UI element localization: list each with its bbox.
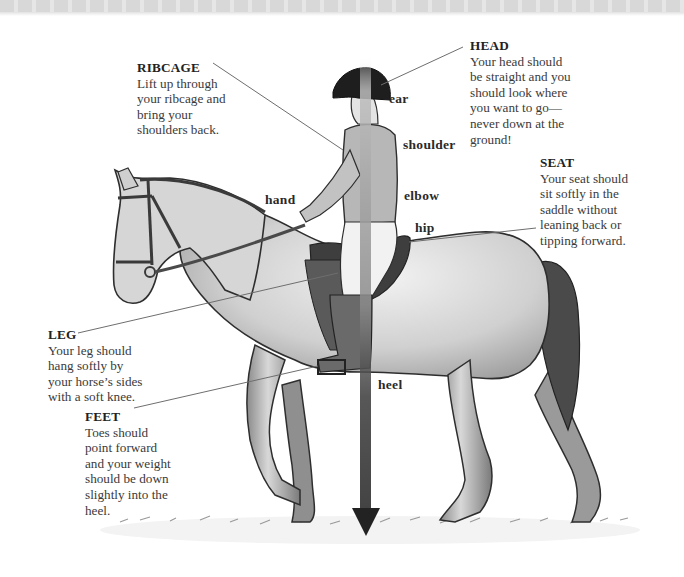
callout-head: HEAD Your head should be straight and yo… [470, 38, 610, 147]
callout-feet-body: Toes should point forward and your weigh… [85, 425, 205, 519]
callout-ribcage-body: Lift up through your ribcage and bring y… [137, 76, 267, 138]
callout-ribcage: RIBCAGE Lift up through your ribcage and… [137, 60, 267, 138]
label-hip: hip [415, 220, 435, 236]
label-shoulder: shoulder [403, 137, 456, 153]
callout-seat-title: SEAT [540, 155, 680, 171]
label-hand: hand [265, 192, 295, 208]
callout-seat: SEAT Your seat should sit softly in the … [540, 155, 680, 249]
label-elbow: elbow [404, 188, 439, 204]
callout-leg: LEG Your leg should hang softly by your … [48, 327, 178, 405]
callout-feet: FEET Toes should point forward and your … [85, 409, 205, 518]
label-ear: ear [389, 91, 409, 107]
horse-neck-head [113, 170, 265, 303]
label-heel: heel [378, 377, 402, 393]
callout-feet-title: FEET [85, 409, 205, 425]
callout-seat-body: Your seat should sit softly in the saddl… [540, 171, 680, 249]
callout-head-body: Your head should be straight and you sho… [470, 54, 610, 148]
callout-ribcage-title: RIBCAGE [137, 60, 267, 76]
callout-leg-title: LEG [48, 327, 178, 343]
callout-head-title: HEAD [470, 38, 610, 54]
callout-leg-body: Your leg should hang softly by your hors… [48, 343, 178, 405]
